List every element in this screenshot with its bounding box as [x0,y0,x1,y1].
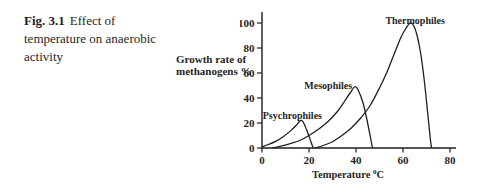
y-tick-label: 40 [244,92,256,104]
figure-caption-number: Fig. 3.1 [24,13,65,28]
x-axis-title-unit: C [376,169,384,180]
series-label-psychrophiles: Psychrophiles [263,110,322,121]
x-tick-label: 20 [304,154,316,166]
series-label-mesophiles: Mesophiles [304,80,352,91]
y-tick-label: 80 [244,42,256,54]
x-tick-label: 0 [259,154,265,166]
x-axis-title-text: Temperature [312,169,373,180]
y-tick-label: 100 [240,17,255,29]
figure-caption: Fig. 3.1Effect of temperature on anaerob… [24,12,176,66]
x-tick-label: 40 [351,154,363,166]
figure-panel: Fig. 3.1Effect of temperature on anaerob… [0,0,480,193]
x-axis-title: Temperature 0C [287,169,409,180]
x-tick-label: 60 [398,154,410,166]
y-tick-label: 20 [244,117,256,129]
axes-lines [262,12,456,148]
series-label-thermophiles: Thermophiles [385,15,445,26]
x-tick-label: 80 [445,154,457,166]
growth-rate-chart: 020406080020406080100PsychrophilesMesoph… [240,0,480,193]
y-tick-label: 0 [249,142,255,154]
y-tick-label: 60 [244,67,256,79]
